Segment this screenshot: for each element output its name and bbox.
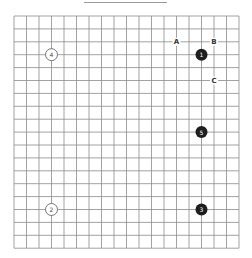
stone-move-number: 1 (200, 51, 204, 58)
stone-move-number: 2 (50, 206, 54, 213)
point-marker-b: B (211, 38, 216, 46)
go-board[interactable]: ABC 12345 (0, 0, 252, 258)
black-stone-5[interactable]: 5 (196, 126, 208, 138)
point-markers: ABC (173, 38, 219, 85)
white-stone-2[interactable]: 2 (46, 204, 58, 216)
point-marker-a: A (174, 38, 180, 46)
black-stone-3[interactable]: 3 (196, 204, 208, 216)
stone-move-number: 3 (200, 206, 204, 213)
stone-move-number: 5 (200, 129, 204, 136)
black-stone-1[interactable]: 1 (196, 49, 208, 61)
stone-move-number: 4 (50, 51, 54, 58)
point-marker-c: C (211, 77, 216, 85)
white-stone-4[interactable]: 4 (46, 49, 58, 61)
